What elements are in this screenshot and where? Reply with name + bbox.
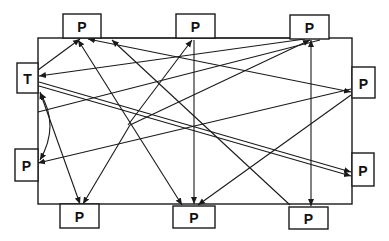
node-label: P bbox=[358, 163, 367, 179]
edge-arrow-14 bbox=[198, 95, 351, 205]
node-p2: P bbox=[176, 14, 215, 38]
node-label: P bbox=[22, 158, 31, 174]
edge-arrow-13 bbox=[83, 125, 130, 204]
node-label: P bbox=[359, 76, 368, 92]
edge-arrow-2 bbox=[39, 82, 351, 172]
edge-arrow-0 bbox=[38, 39, 80, 70]
node-label: P bbox=[189, 210, 198, 226]
node-label: P bbox=[304, 211, 313, 227]
node-p7: P bbox=[173, 206, 215, 228]
edges-layer bbox=[38, 38, 351, 206]
node-p4: P bbox=[352, 67, 375, 98]
node-label: P bbox=[191, 19, 200, 35]
edge-arrow-16 bbox=[38, 40, 320, 112]
node-label: P bbox=[305, 20, 314, 36]
node-label: P bbox=[75, 209, 84, 225]
nodes-layer: TPPPPPPPPP bbox=[15, 14, 375, 229]
node-p8: P bbox=[60, 204, 99, 228]
edge-arrow-11 bbox=[128, 40, 192, 125]
node-p6: P bbox=[289, 207, 328, 229]
node-p3: P bbox=[290, 15, 329, 39]
central-frame bbox=[38, 38, 352, 204]
network-diagram: TPPPPPPPPP bbox=[0, 0, 389, 241]
curved-edge-arrow-0 bbox=[40, 93, 50, 160]
edge-arrow-1 bbox=[39, 39, 305, 76]
edge-arrow-7 bbox=[112, 40, 290, 205]
node-p5: P bbox=[352, 153, 374, 186]
node-p1: P bbox=[63, 14, 101, 38]
node-t: T bbox=[17, 63, 38, 93]
node-p9: P bbox=[15, 149, 38, 181]
node-label: P bbox=[77, 19, 86, 35]
node-label: T bbox=[23, 71, 32, 87]
